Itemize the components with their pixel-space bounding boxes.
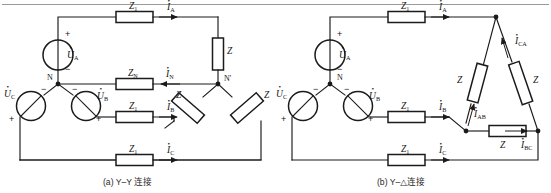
b-neutral-node-n-label: N xyxy=(337,73,343,82)
load-z-b-label: Z xyxy=(176,90,182,100)
load-z-ab-body xyxy=(467,63,487,103)
load-z-bc-label: Z xyxy=(500,140,506,150)
wire-n-to-source-b xyxy=(58,84,73,95)
wire-delta-ca-upper xyxy=(496,17,512,62)
source-b-plus: + xyxy=(96,114,101,124)
load-node-nprime-label: N' xyxy=(224,74,232,83)
z1-line-a-body xyxy=(116,12,153,23)
b-source-b-minus: − xyxy=(344,84,349,94)
z1-line-c-label: Z1 xyxy=(129,144,137,155)
neutral-node-n-label: N xyxy=(47,73,53,82)
source-b-minus: − xyxy=(72,84,77,94)
wire-delta-ab-upper xyxy=(483,17,496,66)
zn-label: ZN xyxy=(128,68,138,79)
zn-body xyxy=(116,79,153,90)
panel-a-caption: (a) Y–Y 连接 xyxy=(103,176,152,187)
wire-b-to-delta-b-node xyxy=(449,117,466,131)
b-source-c-minus: − xyxy=(313,84,318,94)
z1-line-b-body xyxy=(116,112,153,123)
z1-line-a-label: Z1 xyxy=(129,1,137,12)
z1-line-b-label: Z1 xyxy=(129,101,137,112)
panel-b-circuit: Z1 IA • UA • + − N UC • − + UB • − + Z1 … xyxy=(276,0,540,187)
circuit-figure: Z1 IA • Z ZN IN • N N' UA • + − UC • − + xyxy=(0,0,551,193)
wire-nprime-to-loadz-b xyxy=(203,84,218,97)
load-z-c-label: Z xyxy=(264,90,270,100)
panel-a-circuit: Z1 IA • Z ZN IN • N N' UA • + − UC • − + xyxy=(4,0,270,187)
source-a-plus: + xyxy=(65,29,70,39)
wire-delta-ca-lower xyxy=(529,104,538,131)
load-z-ab-label: Z xyxy=(457,75,463,85)
b-z1-line-a-label: Z1 xyxy=(401,1,409,12)
load-z-a-body xyxy=(213,38,224,70)
wire-b-n-to-source-b xyxy=(330,84,345,95)
b-z1-line-b-body xyxy=(388,112,425,123)
load-z-ab-group xyxy=(467,63,487,103)
b-z1-line-c-body xyxy=(388,155,425,166)
load-z-ca-group xyxy=(509,61,533,104)
z1-line-c-body xyxy=(116,155,153,166)
load-z-c-body xyxy=(231,93,264,124)
wire-nprime-to-loadz-c xyxy=(218,84,232,97)
b-z1-line-b-label: Z1 xyxy=(401,101,409,112)
panel-b-caption: (b) Y–△连接 xyxy=(377,176,425,187)
source-a-minus: − xyxy=(65,64,70,74)
wire-loadz-b-tail xyxy=(165,121,174,128)
source-c-plus: + xyxy=(9,114,14,124)
load-z-ca-body xyxy=(509,61,533,104)
b-source-b-plus: + xyxy=(368,114,373,124)
b-z1-line-c-label: Z1 xyxy=(401,144,409,155)
load-z-c-group xyxy=(231,93,264,124)
b-source-a-plus: + xyxy=(337,29,342,39)
load-z-a-label: Z xyxy=(227,46,233,56)
wire-delta-ab-lower xyxy=(466,104,471,123)
circuit-diagram-svg: Z1 IA • Z ZN IN • N N' UA • + − UC • − + xyxy=(0,0,551,193)
load-z-ca-label: Z xyxy=(533,75,539,85)
source-c-minus: − xyxy=(41,84,46,94)
wire-z1b-to-loadz-b xyxy=(153,117,174,121)
b-z1-line-a-body xyxy=(388,12,425,23)
b-source-c-plus: + xyxy=(281,114,286,124)
